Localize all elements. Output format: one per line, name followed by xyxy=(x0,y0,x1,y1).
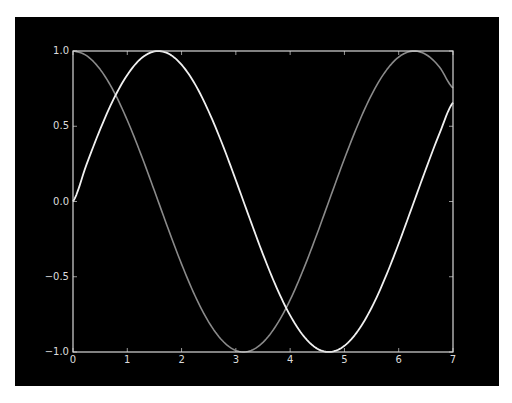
line-chart xyxy=(73,51,453,352)
axes-frame xyxy=(73,51,453,352)
x-tick-label: 4 xyxy=(287,355,293,365)
x-tick-label: 5 xyxy=(341,355,347,365)
y-tick-label: −1.0 xyxy=(45,347,69,357)
figure-canvas: 1.0 0.5 0.0 −0.5 −1.0 0 1 2 3 4 5 6 7 xyxy=(15,17,499,386)
x-tick-label: 6 xyxy=(396,355,402,365)
x-tick-label: 7 xyxy=(450,355,456,365)
x-tick-label: 0 xyxy=(70,355,76,365)
x-tick-label: 2 xyxy=(178,355,184,365)
tick-marks xyxy=(73,51,453,352)
y-tick-label: 0.0 xyxy=(53,197,69,207)
x-tick-label: 3 xyxy=(233,355,239,365)
plot-area: 1.0 0.5 0.0 −0.5 −1.0 0 1 2 3 4 5 6 7 xyxy=(73,51,453,352)
series-sin-line xyxy=(73,51,453,352)
x-tick-label: 1 xyxy=(124,355,130,365)
y-tick-label: 0.5 xyxy=(53,121,69,131)
y-tick-label: −0.5 xyxy=(45,272,69,282)
series-cos-line xyxy=(73,51,453,352)
y-tick-label: 1.0 xyxy=(53,46,69,56)
